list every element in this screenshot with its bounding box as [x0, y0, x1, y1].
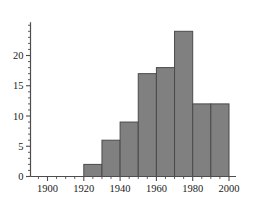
x-axis-tick-label: 1900: [37, 183, 58, 194]
histogram-bar: [120, 122, 138, 176]
x-axis-tick-label: 2000: [219, 183, 240, 194]
histogram-bar: [138, 74, 156, 177]
histogram-plot-area: 05101520 190019201940196019802000: [0, 0, 255, 202]
histogram-bar: [102, 140, 120, 176]
x-axis-tick-label: 1920: [73, 183, 94, 194]
y-axis-tick-label: 15: [13, 80, 24, 91]
histogram-bar: [156, 68, 174, 177]
histogram-bar: [193, 104, 211, 177]
x-axis-tick-label: 1940: [110, 183, 131, 194]
histogram-bar: [211, 104, 229, 177]
y-axis-tick-label: 10: [13, 111, 24, 122]
x-axis-tick-label: 1960: [146, 183, 167, 194]
x-axis-tick-label: 1980: [182, 183, 203, 194]
y-axis-tick-label: 0: [18, 171, 23, 182]
histogram-chart: 05101520 190019201940196019802000: [0, 0, 255, 202]
histogram-bar: [84, 164, 102, 176]
y-axis-tick-label: 20: [13, 50, 24, 61]
y-axis-tick-label: 5: [18, 141, 23, 152]
histogram-bar: [175, 31, 193, 176]
